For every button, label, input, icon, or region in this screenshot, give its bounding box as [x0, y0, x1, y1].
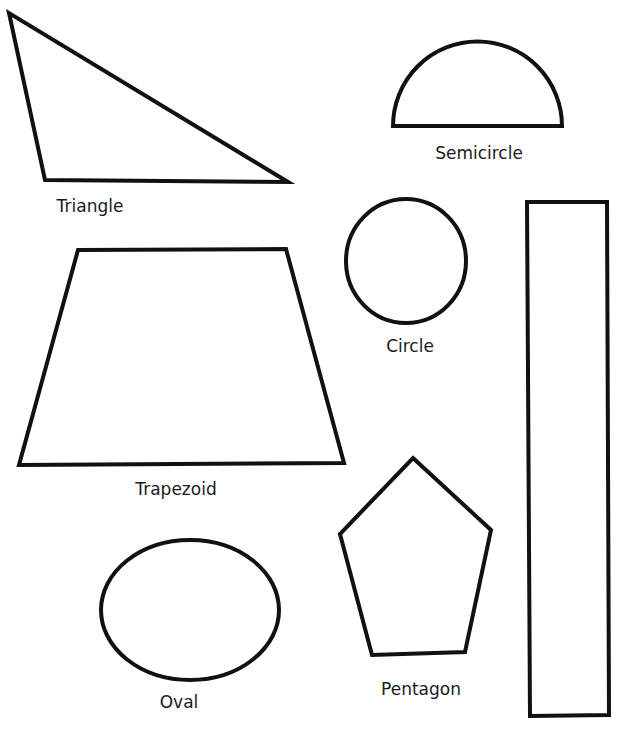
- shapes-worksheet: Triangle Semicircle Circle Trapezoid Pen…: [0, 0, 619, 735]
- trapezoid-shape: [19, 249, 344, 465]
- rectangle-shape: [527, 202, 609, 716]
- pentagon-label: Pentagon: [381, 679, 461, 699]
- pentagon-shape: [340, 458, 491, 655]
- triangle-shape: [9, 13, 288, 182]
- semicircle-shape: [393, 42, 562, 127]
- circle-shape: [346, 199, 466, 323]
- triangle-label: Triangle: [57, 196, 124, 216]
- oval-shape: [101, 540, 279, 680]
- circle-label: Circle: [386, 336, 434, 356]
- semicircle-label: Semicircle: [435, 143, 523, 163]
- trapezoid-label: Trapezoid: [135, 479, 216, 499]
- oval-label: Oval: [160, 692, 199, 712]
